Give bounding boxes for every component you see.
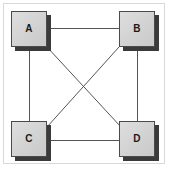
node-d-label: D <box>133 134 140 144</box>
node-a-label: A <box>25 24 32 34</box>
node-d[interactable]: D <box>119 121 155 157</box>
node-c[interactable]: C <box>11 121 47 157</box>
node-c-label: C <box>25 134 32 144</box>
node-b-label: B <box>133 24 140 34</box>
diagram-canvas: A B C D <box>0 0 169 177</box>
node-a[interactable]: A <box>11 11 47 47</box>
node-b[interactable]: B <box>119 11 155 47</box>
